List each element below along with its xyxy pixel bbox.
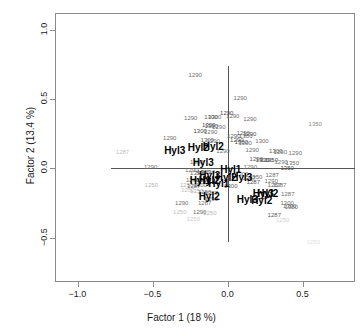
y-axis-title: Factor 2 (13.4 %) <box>25 61 36 231</box>
loading-label: Hyl2 <box>203 142 224 152</box>
score-label: 1350 <box>309 121 322 127</box>
plot-area: 1290129012901290130013001290129013501300… <box>55 13 355 282</box>
x-axis-tick-label: 0.5 <box>296 289 309 299</box>
score-label: 1250 <box>145 182 158 188</box>
score-label: 1290 <box>289 150 302 156</box>
score-label: 1290 <box>189 72 202 78</box>
score-label: 1250 <box>276 217 289 223</box>
y-axis-tick-label: 0.0 <box>33 162 55 172</box>
score-label: 1287 <box>281 191 294 197</box>
loading-label: Hyl2 <box>251 196 272 206</box>
score-label: 1250 <box>173 209 186 215</box>
score-label: 1287 <box>266 172 279 178</box>
loading-label: Hyl3 <box>193 158 214 168</box>
score-label: 1250 <box>307 239 320 245</box>
score-label: 1300 <box>255 138 268 144</box>
score-label: 1290 <box>204 129 217 135</box>
y-axis-tick-label: −0.5 <box>33 232 55 242</box>
y-axis-tick-label-text: 0.0 <box>39 156 49 178</box>
score-label: 1290 <box>274 149 287 155</box>
x-axis-tick-label: 0.0 <box>221 289 234 299</box>
y-axis-tick-label-text: −0.5 <box>39 226 49 248</box>
score-label: 1290 <box>184 115 197 121</box>
x-axis-tick <box>303 282 304 287</box>
score-label: 1290 <box>163 135 176 141</box>
y-axis-tick-label: 0.5 <box>33 93 55 103</box>
x-axis-tick <box>78 282 79 287</box>
score-label: 1290 <box>226 113 239 119</box>
loading-label: Hyl3 <box>164 146 185 156</box>
score-label: 1290 <box>144 164 157 170</box>
x-axis-tick <box>153 282 154 287</box>
x-axis-title: Factor 1 (18 %) <box>0 312 363 323</box>
y-axis-tick-label-text: 0.5 <box>39 87 49 109</box>
score-label: 1290 <box>234 95 247 101</box>
score-label: 1290 <box>175 200 188 206</box>
factor-analysis-plot: 1290129012901290130013001290129013501300… <box>0 0 363 336</box>
x-axis-tick <box>228 282 229 287</box>
score-label: 1300 <box>239 140 252 146</box>
score-label: 1250 <box>203 210 216 216</box>
score-label: 1290 <box>246 147 259 153</box>
loading-label: Hyl1 <box>208 179 229 189</box>
reference-line-vertical <box>228 66 229 242</box>
score-label: 1350 <box>285 204 298 210</box>
score-label: 1290 <box>244 164 257 170</box>
x-axis-tick-label: −1.0 <box>69 289 87 299</box>
loading-label: Hyl3 <box>231 173 252 183</box>
score-label: 1287 <box>273 182 286 188</box>
score-label: 1300 <box>208 114 221 120</box>
x-axis-tick-label: −0.5 <box>144 289 162 299</box>
score-label: 1290 <box>243 116 256 122</box>
y-axis-tick-label-text: 1.0 <box>39 18 49 40</box>
y-axis-tick-label: 1.0 <box>33 24 55 34</box>
loading-label: Hyl2 <box>199 192 220 202</box>
score-label: 1287 <box>116 149 129 155</box>
score-label: 1350 <box>281 165 294 171</box>
score-label: 1250 <box>187 216 200 222</box>
